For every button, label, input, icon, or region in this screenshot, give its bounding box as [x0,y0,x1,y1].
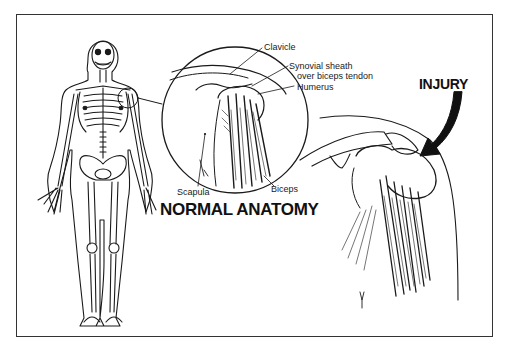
normal-anatomy-title: NORMAL ANATOMY [160,200,319,220]
label-humerus: Humerus [297,82,334,92]
inset-connector-line [138,98,162,104]
injury-arrow-icon [420,92,462,156]
skeleton-figure [38,41,156,326]
label-clavicle: Clavicle [264,42,296,52]
label-biceps: Biceps [271,184,298,194]
injury-title: INJURY [419,76,468,92]
normal-shoulder-inset [162,47,308,193]
label-synovial-sheath-line2: over biceps tendon [297,71,373,81]
anatomy-illustration [0,0,506,348]
label-synovial-sheath-line1: Synovial sheath [289,61,353,71]
label-scapula: Scapula [177,187,210,197]
